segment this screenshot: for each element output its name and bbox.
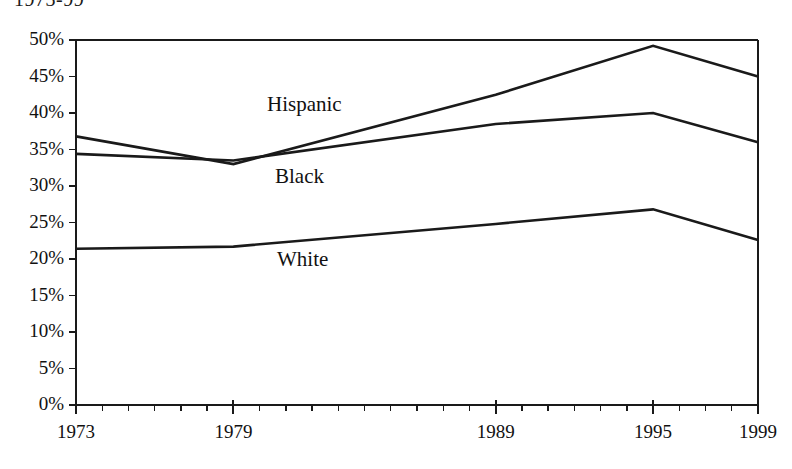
chart-figure: 1973-99 50%45%40%35%30%25%20%15%10%5%0% … bbox=[0, 0, 792, 469]
data-series-lines bbox=[76, 46, 758, 249]
x-axis-tick-label: 1999 bbox=[718, 421, 792, 443]
axes bbox=[76, 40, 758, 405]
x-axis-tick-label: 1989 bbox=[456, 421, 536, 443]
y-axis-tick-label: 20% bbox=[0, 247, 64, 269]
y-axis-tick-label: 35% bbox=[0, 138, 64, 160]
y-axis-tick-label: 10% bbox=[0, 320, 64, 342]
y-axis-tick-label: 30% bbox=[0, 174, 64, 196]
x-axis-tick-label: 1995 bbox=[613, 421, 693, 443]
y-axis-tick-label: 25% bbox=[0, 211, 64, 233]
series-label-hispanic: Hispanic bbox=[267, 92, 342, 117]
series-line-white bbox=[76, 209, 758, 248]
y-axis-tick-label: 0% bbox=[0, 393, 64, 415]
x-axis-tick-label: 1979 bbox=[193, 421, 273, 443]
x-axis-tick-label: 1973 bbox=[36, 421, 116, 443]
line-chart-plot bbox=[0, 0, 792, 469]
series-label-white: White bbox=[277, 247, 328, 272]
y-axis-tick-label: 5% bbox=[0, 357, 64, 379]
y-axis-tick-label: 50% bbox=[0, 28, 64, 50]
series-label-black: Black bbox=[275, 164, 324, 189]
y-axis-tick-label: 15% bbox=[0, 284, 64, 306]
y-axis-tick-label: 45% bbox=[0, 65, 64, 87]
y-axis-tick-label: 40% bbox=[0, 101, 64, 123]
series-line-hispanic bbox=[76, 46, 758, 164]
